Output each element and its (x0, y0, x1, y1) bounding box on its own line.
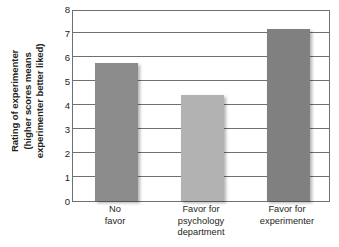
x-axis-category-label: Nofavor (72, 204, 158, 227)
bar (181, 95, 224, 201)
x-axis-category-label-line: No (72, 204, 158, 216)
x-axis-category-label: Favor forexperimenter (244, 204, 330, 227)
y-axis-tick-label: 0 (52, 197, 70, 207)
y-axis-tick-label: 7 (52, 29, 70, 39)
x-axis-category-label-line: experimenter (244, 216, 330, 228)
bar (95, 63, 138, 201)
x-axis-category-label-line: Favor for (244, 204, 330, 216)
y-axis-tick-label: 4 (52, 101, 70, 111)
x-axis-category-label-line: Favor for (158, 204, 244, 216)
x-axis-category-label-line: favor (72, 216, 158, 228)
bar (267, 29, 310, 201)
y-axis-tick-label: 8 (52, 5, 70, 15)
y-axis-tick-label: 3 (52, 125, 70, 135)
y-axis-tick-label: 2 (52, 149, 70, 159)
y-axis-tick-label: 6 (52, 53, 70, 63)
x-axis-category-labels: NofavorFavor forpsychologydepartmentFavo… (72, 204, 330, 247)
x-axis-category-label: Favor forpsychologydepartment (158, 204, 244, 239)
y-axis-tick-labels: 876543210 (52, 0, 70, 212)
bar-chart: Rating of experimenter (higher scores me… (0, 0, 339, 247)
y-axis-title-line: Rating of experimenter (9, 44, 22, 159)
y-axis-tick-label: 1 (52, 173, 70, 183)
y-axis-title-line: (higher scores means (22, 44, 35, 159)
x-axis-category-label-line: psychology (158, 216, 244, 228)
plot-area (72, 10, 330, 202)
y-axis-title-line: experimenter better liked) (34, 44, 47, 159)
y-axis-tick-label: 5 (52, 77, 70, 87)
y-axis-title: Rating of experimenter (higher scores me… (0, 0, 56, 202)
x-axis-category-label-line: department (158, 227, 244, 239)
